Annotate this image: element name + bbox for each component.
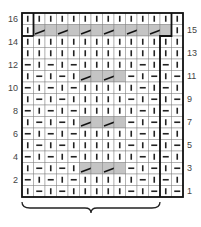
chart-cell — [137, 71, 149, 83]
chart-cell — [160, 82, 172, 94]
chart-cell — [91, 13, 103, 25]
chart-cell — [45, 163, 57, 175]
chart-cell — [91, 71, 103, 83]
chart-cell — [91, 186, 103, 198]
chart-cell — [34, 13, 46, 25]
chart-cell — [160, 59, 172, 71]
chart-cell — [114, 186, 126, 198]
chart-cell — [172, 36, 184, 48]
chart-cell — [45, 128, 57, 140]
chart-cell — [91, 25, 103, 37]
chart-cell — [22, 48, 34, 60]
chart-cell — [91, 128, 103, 140]
chart-cell — [22, 82, 34, 94]
chart-cell — [160, 71, 172, 83]
row-number: 14 — [8, 37, 18, 47]
row-number: 3 — [187, 163, 192, 173]
chart-cell — [160, 25, 172, 37]
chart-cell — [126, 163, 138, 175]
chart-cell — [22, 94, 34, 106]
chart-cell — [80, 13, 92, 25]
chart-cell — [126, 151, 138, 163]
chart-cell — [103, 128, 115, 140]
chart-cell — [68, 174, 80, 186]
chart-cell — [80, 36, 92, 48]
chart-cell — [103, 82, 115, 94]
knitting-chart: 16151413121110987654321 — [0, 0, 201, 227]
chart-cell — [160, 36, 172, 48]
chart-cell — [160, 163, 172, 175]
chart-cell — [34, 71, 46, 83]
chart-cell — [57, 117, 69, 129]
row-number: 7 — [187, 117, 192, 127]
chart-cell — [149, 174, 161, 186]
chart-cell — [172, 117, 184, 129]
chart-cell — [137, 94, 149, 106]
row-number: 5 — [187, 140, 192, 150]
chart-cell — [103, 174, 115, 186]
chart-cell — [114, 71, 126, 83]
chart-cell — [149, 140, 161, 152]
chart-grid — [22, 13, 183, 197]
chart-cell — [149, 82, 161, 94]
chart-cell — [137, 151, 149, 163]
chart-cell — [34, 128, 46, 140]
row-number: 6 — [13, 129, 18, 139]
chart-cell — [114, 174, 126, 186]
chart-cell — [91, 82, 103, 94]
chart-cell — [57, 59, 69, 71]
chart-cell — [34, 105, 46, 117]
chart-cell — [172, 151, 184, 163]
chart-cell — [45, 48, 57, 60]
chart-cell — [126, 71, 138, 83]
chart-cell — [172, 128, 184, 140]
chart-cell — [149, 13, 161, 25]
chart-cell — [172, 71, 184, 83]
chart-cell — [45, 186, 57, 198]
chart-cell — [80, 151, 92, 163]
chart-cell — [80, 94, 92, 106]
chart-cell — [126, 48, 138, 60]
chart-cell — [114, 25, 126, 37]
chart-cell — [34, 94, 46, 106]
chart-cell — [57, 48, 69, 60]
chart-cell — [22, 25, 34, 37]
chart-cell — [137, 36, 149, 48]
chart-cell — [80, 105, 92, 117]
chart-cell — [103, 36, 115, 48]
chart-cell — [68, 71, 80, 83]
chart-cell — [103, 59, 115, 71]
chart-cell — [22, 105, 34, 117]
chart-cell — [80, 59, 92, 71]
chart-cell — [126, 140, 138, 152]
chart-cell — [126, 13, 138, 25]
chart-cell — [137, 82, 149, 94]
chart-cell — [57, 128, 69, 140]
chart-cell — [57, 186, 69, 198]
chart-cell — [114, 48, 126, 60]
chart-cell — [114, 94, 126, 106]
chart-cell — [149, 117, 161, 129]
chart-cell — [80, 186, 92, 198]
chart-cell — [68, 163, 80, 175]
chart-cell — [172, 174, 184, 186]
chart-cell — [114, 163, 126, 175]
chart-cell — [137, 59, 149, 71]
chart-cell — [126, 105, 138, 117]
chart-cell — [137, 25, 149, 37]
chart-cell — [45, 105, 57, 117]
chart-cell — [57, 174, 69, 186]
chart-cell — [57, 140, 69, 152]
chart-cell — [137, 105, 149, 117]
chart-cell — [57, 36, 69, 48]
chart-cell — [114, 59, 126, 71]
chart-cell — [45, 13, 57, 25]
chart-cell — [80, 128, 92, 140]
row-number: 1 — [187, 186, 192, 196]
chart-cell — [22, 140, 34, 152]
row-number: 13 — [187, 48, 197, 58]
chart-cell — [68, 117, 80, 129]
chart-cell — [149, 128, 161, 140]
chart-cell — [34, 117, 46, 129]
chart-cell — [91, 105, 103, 117]
